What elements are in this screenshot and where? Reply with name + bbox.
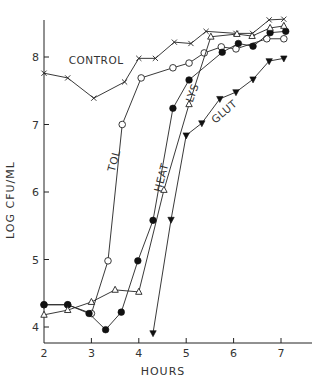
filled-inverted-triangle-marker-icon [183,133,189,139]
filled-inverted-triangle-marker-icon [168,217,174,223]
filled-circle-marker-icon [41,301,48,308]
y-tick-label: 6 [32,186,39,199]
series-glut [150,56,287,337]
open-circle-marker-icon [105,258,112,265]
x-tick-label: 2 [41,347,48,360]
open-circle-marker-icon [138,75,145,82]
y-axis-title: LOG CFU/ML [4,161,17,239]
filled-circle-marker-icon [135,258,142,265]
open-circle-marker-icon [170,65,177,72]
open-triangle-marker-icon [88,298,94,304]
open-triangle-marker-icon [112,286,118,292]
filled-circle-marker-icon [150,217,157,224]
y-tick-label: 5 [32,254,39,267]
open-triangle-marker-icon [281,22,287,28]
filled-circle-marker-icon [118,309,125,316]
filled-circle-marker-icon [219,49,226,56]
x-axis-title: HOURS [141,365,186,378]
filled-circle-marker-icon [86,310,93,317]
x-tick-label: 4 [135,347,142,360]
open-circle-marker-icon [186,60,193,67]
open-circle-marker-icon [263,35,270,42]
filled-circle-marker-icon [282,28,289,35]
filled-circle-marker-icon [250,43,257,50]
annotation-tol: TOL [105,148,123,173]
y-tick-label: 7 [32,119,39,132]
filled-circle-marker-icon [235,40,242,47]
y-tick-label: 4 [32,321,39,334]
x-tick-label: 5 [183,347,190,360]
filled-inverted-triangle-marker-icon [199,121,205,127]
x-marker-icon [122,79,127,84]
series-annotations: CONTROLTOLHEATLYSGLUT [69,54,239,193]
filled-inverted-triangle-marker-icon [150,331,156,337]
x-tick-label: 3 [88,347,95,360]
x-tick-label: 6 [230,347,237,360]
open-circle-marker-icon [119,121,126,128]
filled-inverted-triangle-marker-icon [250,77,256,83]
chart-canvas: 23456745678 CONTROLTOLHEATLYSGLUT HOURS … [0,0,324,385]
growth-curve-chart: 23456745678 CONTROLTOLHEATLYSGLUT HOURS … [0,0,324,385]
filled-circle-marker-icon [102,326,109,333]
filled-circle-marker-icon [170,105,177,112]
x-tick-label: 7 [278,347,285,360]
open-circle-marker-icon [281,35,288,42]
annotation-control: CONTROL [69,54,124,66]
y-tick-label: 8 [32,51,39,64]
x-marker-icon [91,96,96,101]
annotation-glut: GLUT [209,97,239,125]
